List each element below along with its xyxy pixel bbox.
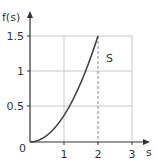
grid — [30, 36, 132, 142]
axes — [30, 16, 146, 142]
x-axis-arrow-icon — [143, 139, 150, 145]
x-tick-1: 1 — [61, 148, 68, 161]
x-tick-2: 2 — [95, 148, 102, 161]
y-tick-1: 1 — [17, 65, 24, 78]
y-axis-arrow-icon — [27, 11, 33, 18]
chart-canvas: f(s) s 0 1.5 1 0.5 1 2 3 S — [0, 0, 158, 166]
y-axis-label: f(s) — [2, 11, 20, 24]
x-tick-3: 3 — [129, 148, 136, 161]
y-tick-1.5: 1.5 — [7, 30, 25, 43]
x-axis-label: s — [146, 146, 152, 159]
ticks — [27, 36, 132, 145]
region-label-S: S — [106, 52, 113, 65]
y-tick-0.5: 0.5 — [7, 100, 25, 113]
origin-label: 0 — [19, 142, 26, 155]
